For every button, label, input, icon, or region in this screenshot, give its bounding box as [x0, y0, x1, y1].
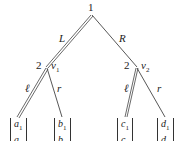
leaf-b: b1 b2: [54, 118, 71, 141]
action-v2-l: ℓ: [124, 83, 129, 94]
edge-v1-l: [17, 68, 48, 118]
leaf-c: c1 c2: [117, 118, 133, 141]
game-tree-edges: [0, 0, 183, 141]
edge-label-R: R: [119, 33, 126, 44]
action-v1-l: ℓ: [25, 83, 30, 94]
node-v2-name: v2: [141, 60, 149, 76]
action-v2-r: r: [157, 83, 161, 94]
edge-R: [92, 15, 137, 67]
leaf-a: a1 a2: [10, 118, 27, 141]
root-label: 1: [88, 2, 94, 13]
node-v2-player: 2: [124, 60, 130, 71]
node-v1-player: 2: [36, 60, 42, 71]
edge-label-L: L: [59, 33, 65, 44]
action-v1-r: r: [57, 83, 61, 94]
leaf-d: d1 d2: [157, 118, 174, 141]
node-v1-name: v1: [51, 60, 59, 76]
